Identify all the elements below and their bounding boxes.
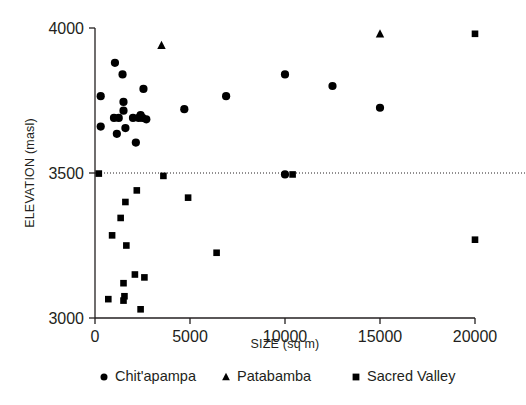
legend-item: Patabamba [222,368,312,384]
data-point-triangle [376,29,384,37]
data-point-square [109,232,116,239]
y-axis-title: ELEVATION (masl) [23,118,37,228]
data-point-circle [118,70,126,78]
data-point-square [132,271,139,278]
data-point-circle [328,82,336,90]
data-point-square [117,215,124,222]
data-point-square [96,170,103,177]
data-point-square [213,249,220,256]
data-point-circle [139,85,147,93]
data-point-circle [115,114,123,122]
legend-item-label: Patabamba [237,368,312,384]
data-point-circle [180,105,188,113]
data-point-circle [132,138,140,146]
data-point-circle [222,92,230,100]
data-points-layer [96,29,479,312]
data-point-square [120,280,127,287]
data-point-circle [121,124,129,132]
y-axis-tick-label: 3000 [48,310,84,327]
data-point-circle [376,104,384,112]
data-point-circle [281,70,289,78]
legend-item-label: Chit'apampa [115,368,197,384]
legend-item: Sacred Valley [353,368,457,384]
series-chit-apampa [97,59,385,179]
data-point-circle [97,92,105,100]
data-point-square [105,296,112,303]
x-axis-tick-label: 20000 [453,328,498,345]
data-point-circle [111,59,119,67]
legend-item-label: Sacred Valley [367,368,456,384]
y-axis-tick-label: 4000 [48,20,84,37]
data-point-circle [119,107,127,115]
x-axis-tick-label: 10000 [263,328,308,345]
legend-marker-square [353,374,360,381]
x-axis-tick-label: 15000 [358,328,403,345]
data-point-square [289,171,296,178]
axes-layer: 30003500400005000100001500020000 [48,20,497,345]
series-patabamba [157,29,384,49]
data-point-circle [142,115,150,123]
data-point-circle [119,98,127,106]
data-point-square [123,242,130,249]
data-point-square [160,173,167,180]
data-point-square [141,274,148,281]
data-point-circle [281,170,289,178]
y-axis-tick-label: 3500 [48,165,84,182]
data-point-square [472,31,479,38]
legend-marker-triangle [222,373,230,380]
chart-legend: Chit'apampaPatabambaSacred Valley [101,368,457,384]
data-point-square [122,199,129,206]
elevation-vs-size-scatter-chart: ELEVATION (masl) SIZE (sq m) 30003500400… [0,0,526,405]
data-point-circle [113,130,121,138]
data-point-square [472,236,479,243]
data-point-square [185,194,192,201]
legend-marker-circle [101,374,108,381]
x-axis-tick-label: 5000 [172,328,208,345]
data-point-triangle [157,41,165,49]
x-axis-tick-label: 0 [91,328,100,345]
data-point-square [121,293,128,300]
data-point-circle [97,123,105,131]
scatter-plot-figure: ELEVATION (masl) SIZE (sq m) 30003500400… [0,0,526,405]
data-point-square [137,306,144,313]
legend-item: Chit'apampa [101,368,197,384]
data-point-square [134,187,141,194]
